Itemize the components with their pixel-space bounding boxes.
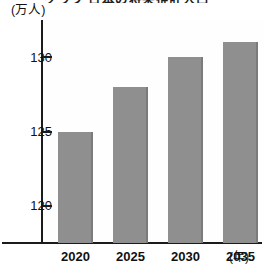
x-tick-label-2025: 2025 [103, 249, 159, 264]
x-tick-label-2020: 2020 [48, 249, 104, 264]
bar-2020 [58, 132, 93, 244]
bar-2030 [168, 57, 203, 243]
x-tick-label-2030: 2030 [158, 249, 214, 264]
bar-2025 [113, 87, 148, 243]
bar-chart-figure: グラフ 日本の将来推計人口 (万人) 120125130 20202025203… [0, 0, 264, 269]
bars-layer [0, 0, 264, 243]
x-axis-unit-label: (年) [229, 250, 249, 264]
bar-2035 [223, 42, 258, 243]
